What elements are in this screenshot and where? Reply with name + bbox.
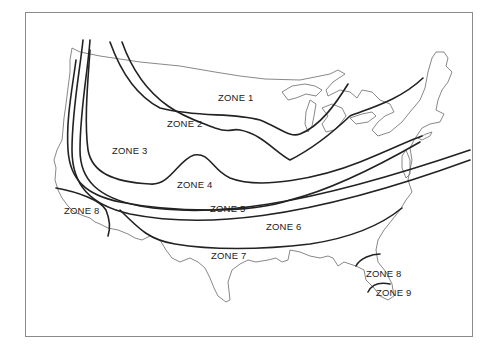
- lake-huron: [322, 104, 346, 132]
- zone-boundary-1-2: [110, 42, 348, 135]
- zone-4-label: ZONE 4: [177, 179, 213, 190]
- zone-7-label: ZONE 7: [211, 250, 247, 261]
- zone-boundary-west-4: [86, 50, 422, 184]
- zone-2-label: ZONE 2: [167, 118, 203, 129]
- lake-superior: [282, 84, 322, 100]
- zone-8-florida-label: ZONE 8: [366, 268, 402, 279]
- lake-michigan: [305, 100, 316, 132]
- zone-boundary-west-2: [80, 40, 470, 210]
- zone-boundary-2-3: [122, 42, 423, 160]
- zone-6-label: ZONE 6: [266, 221, 302, 232]
- zone-boundary-west-1: [72, 40, 470, 220]
- zone-1-label: ZONE 1: [218, 92, 254, 103]
- zone-boundary-fl-8: [356, 254, 380, 266]
- zone-8-west-label: ZONE 8: [64, 205, 100, 216]
- zone-map: ZONE 1 ZONE 2 ZONE 3 ZONE 4 ZONE 5 ZONE …: [0, 0, 501, 349]
- zone-boundary-west-3: [68, 60, 420, 210]
- zone-3-label: ZONE 3: [112, 145, 148, 156]
- zone-5-label: ZONE 5: [210, 203, 246, 214]
- zone-9-label: ZONE 9: [376, 287, 412, 298]
- zone-boundary-6-7: [120, 208, 402, 249]
